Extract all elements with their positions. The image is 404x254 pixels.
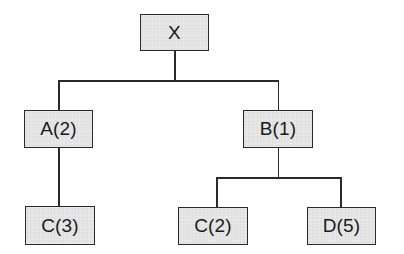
connector-to-b [278,80,280,110]
node-c3-label: C(3) [41,215,79,237]
node-b: B(1) [243,110,313,148]
node-b-label: B(1) [260,118,297,140]
node-a-label: A(2) [40,118,77,140]
node-x: X [140,14,209,51]
node-d5: D(5) [307,207,376,245]
node-c2-label: C(2) [194,215,232,237]
node-d5-label: D(5) [323,215,361,237]
connector-to-d5 [340,177,342,207]
connector-to-a [58,80,60,110]
node-a: A(2) [24,110,93,148]
connector-to-c2 [216,177,218,207]
node-c3: C(3) [25,206,95,245]
node-x-label: X [168,22,181,44]
connector-a-to-c3 [58,147,60,207]
connector-level1-horizontal [58,80,279,82]
node-c2: C(2) [178,207,248,245]
connector-b-down [278,148,280,177]
connector-x-down [174,50,176,80]
connector-level2-horizontal [216,177,342,179]
